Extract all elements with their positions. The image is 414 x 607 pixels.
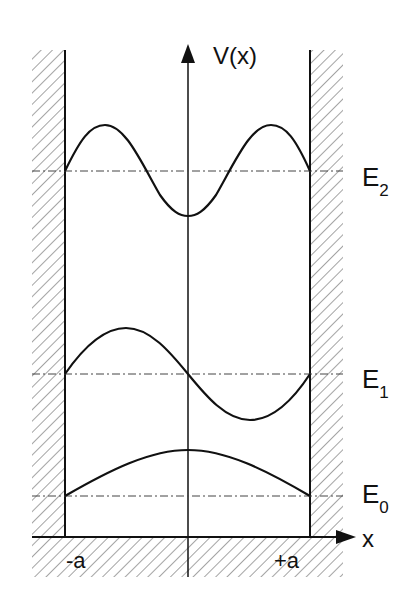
x-tick-right: +a xyxy=(274,548,300,573)
level-label-e1: E1 xyxy=(362,364,389,402)
level-label-e2: E2 xyxy=(362,162,389,200)
y-axis-label: V(x) xyxy=(213,42,257,69)
right-wall-hatch xyxy=(310,50,343,537)
x-axis-label: x xyxy=(362,525,374,552)
left-wall-hatch xyxy=(32,50,65,537)
y-axis-arrow-icon xyxy=(181,44,195,63)
square-well-diagram: V(x) x -a +a E2 E1 E0 xyxy=(0,0,414,607)
x-axis-arrow-icon xyxy=(336,530,356,544)
level-label-e0: E0 xyxy=(362,479,389,517)
x-tick-left: -a xyxy=(66,548,86,573)
